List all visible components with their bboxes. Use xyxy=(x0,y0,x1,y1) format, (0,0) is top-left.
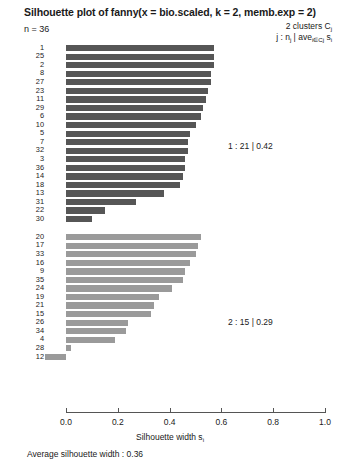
silhouette-bar xyxy=(66,328,126,334)
silhouette-bar xyxy=(66,88,208,94)
legend-clusters-subscript: j xyxy=(331,25,332,32)
y-axis-tick-label: 20 xyxy=(36,233,44,240)
x-axis-tick-label: 0.2 xyxy=(98,417,138,427)
silhouette-plot: Silhouette plot of fanny(x = bio.scaled,… xyxy=(0,0,340,463)
y-axis-tick-label: 33 xyxy=(36,250,44,257)
legend-formula-suffix: s xyxy=(324,32,331,42)
x-axis-tick-label: 0.0 xyxy=(46,417,86,427)
y-axis-tick-label: 2 xyxy=(40,61,44,68)
silhouette-bar xyxy=(66,156,185,162)
legend-clusters-text: 2 clusters C xyxy=(286,21,331,31)
y-axis-tick-label: 16 xyxy=(36,259,44,266)
legend-formula-sub-avg: i∈Cj xyxy=(312,36,324,43)
silhouette-bar xyxy=(66,311,151,317)
x-axis-tick-label: 0.4 xyxy=(150,417,190,427)
x-axis-title: Silhouette width si xyxy=(0,432,340,443)
average-silhouette-width-label: Average silhouette width : 0.36 xyxy=(27,449,143,459)
y-axis-tick-label: 36 xyxy=(36,164,44,171)
silhouette-bar xyxy=(66,277,183,283)
y-axis-tick-label: 6 xyxy=(40,112,44,119)
legend-formula-prefix: j : n xyxy=(276,32,290,42)
y-axis-tick-label: 23 xyxy=(36,87,44,94)
legend-clusters-label: 2 clusters Cj xyxy=(286,21,332,32)
silhouette-bar xyxy=(66,251,196,257)
x-axis-title-text: Silhouette width s xyxy=(136,432,203,442)
silhouette-bar xyxy=(66,199,136,205)
x-axis-tick-mark xyxy=(118,408,119,413)
silhouette-bar xyxy=(66,345,71,351)
y-axis-tick-label: 30 xyxy=(36,215,44,222)
silhouette-bar xyxy=(66,122,196,128)
y-axis-tick-label: 11 xyxy=(36,95,44,102)
y-axis-tick-label: 7 xyxy=(40,138,44,145)
y-axis-tick-label: 22 xyxy=(36,206,44,213)
silhouette-bar xyxy=(66,148,188,154)
x-axis-title-subscript: i xyxy=(203,436,204,443)
y-axis-tick-label: 13 xyxy=(36,189,44,196)
x-axis-tick-mark xyxy=(221,408,222,413)
y-axis-labels: 1252827231129610573233614181331223020173… xyxy=(0,0,44,463)
x-axis-tick-mark xyxy=(66,408,67,413)
x-axis-tick-mark xyxy=(170,408,171,413)
silhouette-bar xyxy=(66,302,154,308)
y-axis-tick-label: 4 xyxy=(40,335,44,342)
y-axis-tick-label: 19 xyxy=(36,293,44,300)
x-axis-tick-label: 0.6 xyxy=(201,417,241,427)
cluster-2-summary: 2 : 15 | 0.29 xyxy=(228,317,273,327)
x-axis-tick-label: 1.0 xyxy=(305,417,340,427)
x-axis-line xyxy=(66,412,325,413)
x-axis-tick-label: 0.8 xyxy=(253,417,293,427)
y-axis-tick-label: 8 xyxy=(40,69,44,76)
silhouette-bar xyxy=(66,268,185,274)
y-axis-tick-label: 1 xyxy=(40,44,44,51)
silhouette-bar xyxy=(66,243,198,249)
silhouette-bar xyxy=(66,96,206,102)
legend-formula-label: j : nj | avei∈Cj si xyxy=(276,32,332,43)
y-axis-tick-label: 3 xyxy=(40,155,44,162)
y-axis-tick-label: 17 xyxy=(36,241,44,248)
x-axis-tick-mark xyxy=(325,408,326,413)
silhouette-bar xyxy=(66,131,190,137)
y-axis-tick-label: 35 xyxy=(36,276,44,283)
silhouette-bar xyxy=(66,173,183,179)
y-axis-tick-label: 21 xyxy=(36,301,44,308)
y-axis-tick-label: 5 xyxy=(40,129,44,136)
silhouette-bar xyxy=(66,260,190,266)
silhouette-bar xyxy=(66,79,211,85)
silhouette-bar xyxy=(66,294,159,300)
y-axis-tick-label: 26 xyxy=(36,318,44,325)
y-axis-tick-label: 24 xyxy=(36,284,44,291)
silhouette-bar xyxy=(66,182,180,188)
silhouette-bar xyxy=(66,113,201,119)
silhouette-bar xyxy=(66,54,214,60)
y-axis-tick-label: 14 xyxy=(36,172,44,179)
y-axis-tick-label: 31 xyxy=(36,198,44,205)
legend-formula-sub-si: i xyxy=(331,36,332,43)
silhouette-bar xyxy=(66,190,164,196)
silhouette-bar xyxy=(66,216,92,222)
y-axis-tick-label: 10 xyxy=(36,121,44,128)
y-axis-tick-label: 9 xyxy=(40,267,44,274)
silhouette-bar xyxy=(66,139,188,145)
silhouette-bar xyxy=(45,354,66,360)
y-axis-tick-label: 28 xyxy=(36,344,44,351)
y-axis-tick-label: 25 xyxy=(36,52,44,59)
y-axis-tick-label: 12 xyxy=(36,353,44,360)
legend-formula-mid: | ave xyxy=(291,32,312,42)
silhouette-bar xyxy=(66,234,201,240)
page-title: Silhouette plot of fanny(x = bio.scaled,… xyxy=(0,6,340,18)
y-axis-tick-label: 18 xyxy=(36,181,44,188)
silhouette-bar xyxy=(66,207,105,213)
y-axis-tick-label: 27 xyxy=(36,78,44,85)
silhouette-bar xyxy=(66,165,185,171)
silhouette-bar xyxy=(66,105,203,111)
silhouette-bar xyxy=(66,320,128,326)
silhouette-bar xyxy=(66,45,214,51)
silhouette-bar xyxy=(66,62,214,68)
y-axis-tick-label: 15 xyxy=(36,310,44,317)
y-axis-tick-label: 32 xyxy=(36,146,44,153)
y-axis-tick-label: 29 xyxy=(36,104,44,111)
cluster-1-summary: 1 : 21 | 0.42 xyxy=(228,141,273,151)
silhouette-bar xyxy=(66,285,172,291)
y-axis-tick-label: 34 xyxy=(36,327,44,334)
